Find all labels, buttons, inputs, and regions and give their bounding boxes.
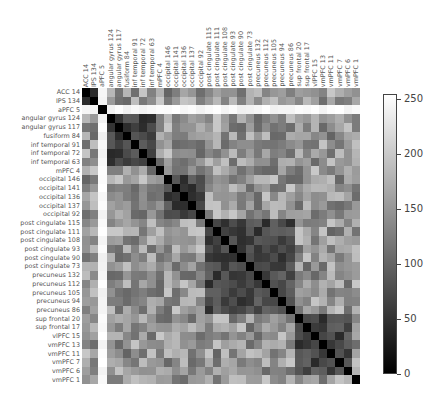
column-label: inf temporal 91: [131, 38, 139, 87]
row-label: inf temporal 72: [31, 149, 80, 157]
column-label: post cingulate 73: [246, 31, 254, 87]
colorbar-tick: [397, 154, 401, 155]
column-label: precuneus 105: [270, 39, 278, 87]
column-label: occipital 92: [197, 50, 205, 87]
row-label: post cingulate 108: [20, 236, 80, 244]
colorbar-tick-label: 50: [404, 314, 417, 324]
row-label: vmPFC 11: [48, 350, 80, 358]
row-label: sup frontal 17: [35, 323, 80, 331]
row-label: aPFC 5: [58, 106, 80, 114]
column-label: vmPFC 7: [336, 59, 344, 87]
column-label: vmPFC 11: [327, 55, 335, 87]
colorbar-tick-label: 150: [404, 204, 423, 214]
colorbar-tick-label: 100: [404, 259, 423, 269]
row-label: sup frontal 20: [35, 315, 80, 323]
column-label: vmPFC 6: [344, 59, 352, 87]
row-label: occipital 92: [43, 210, 80, 218]
row-label: occipital 137: [39, 202, 80, 210]
column-label: fusiform 84: [123, 51, 131, 87]
column-label: post cingulate 115: [205, 27, 213, 87]
column-label: vmPFC 13: [319, 55, 327, 87]
column-label: angular gyrus 117: [115, 29, 123, 88]
row-label: post cingulate 93: [24, 245, 80, 253]
colorbar-tick: [397, 209, 401, 210]
row-label: occipital 141: [39, 184, 80, 192]
row-label: occipital 146: [39, 175, 80, 183]
row-label: inf temporal 91: [31, 141, 80, 149]
column-label: mPFC 4: [156, 63, 164, 87]
column-label: inf temporal 63: [148, 38, 156, 87]
row-label: ACC 14: [57, 88, 80, 96]
column-label: post cingulate 108: [221, 27, 229, 87]
column-label: sup frontal 20: [295, 42, 303, 87]
column-label: angular gyrus 124: [107, 29, 115, 88]
colorbar-tick: [397, 319, 401, 320]
row-label: post cingulate 111: [20, 228, 80, 236]
row-label: precuneus 132: [32, 271, 80, 279]
row-label: angular gyrus 124: [22, 114, 81, 122]
colorbar-tick: [397, 374, 401, 375]
row-label: mPFC 4: [56, 167, 80, 175]
colorbar-tick-label: 200: [404, 149, 423, 159]
column-label: post cingulate 111: [213, 27, 221, 87]
colorbar-tick: [397, 264, 401, 265]
row-label: vmPFC 6: [52, 367, 80, 375]
row-label: precuneus 112: [32, 280, 80, 288]
column-label: ACC 14: [82, 64, 90, 87]
column-label: occipital 137: [188, 46, 196, 87]
column-label: aPFC 5: [98, 65, 106, 87]
column-label: precuneus 132: [254, 39, 262, 87]
column-label: occipital 141: [172, 46, 180, 87]
column-label: vmPFC 1: [352, 59, 360, 87]
heatmap-matrix: [82, 88, 360, 384]
row-label: post cingulate 115: [20, 219, 80, 227]
column-label: inf temporal 72: [139, 38, 147, 87]
row-label: precuneus 86: [36, 306, 80, 314]
row-label: vmPFC 7: [52, 358, 80, 366]
heatmap-cell: [352, 375, 361, 384]
column-label: occipital 146: [164, 46, 172, 87]
column-label: precuneus 94: [278, 43, 286, 87]
column-label: precuneus 112: [262, 39, 270, 87]
column-label: vlPFC 15: [311, 59, 319, 87]
colorbar-tick-label: 250: [404, 94, 423, 104]
colorbar-tick-label: 0: [404, 369, 410, 379]
colorbar-tick: [397, 99, 401, 100]
row-label: post cingulate 90: [24, 254, 80, 262]
column-label: occipital 136: [180, 46, 188, 87]
row-label: angular gyrus 117: [22, 123, 81, 131]
row-label: vlPFC 15: [52, 332, 80, 340]
row-label: vmPFC 1: [52, 376, 80, 384]
row-label: post cingulate 73: [24, 262, 80, 270]
row-label: fusiform 84: [44, 132, 80, 140]
row-label: occipital 136: [39, 193, 80, 201]
colorbar: [383, 94, 397, 374]
row-label: IPS 134: [56, 97, 80, 105]
row-label: precuneus 94: [36, 297, 80, 305]
column-label: post cingulate 90: [237, 31, 245, 87]
column-label: precuneus 86: [287, 43, 295, 87]
row-label: vmPFC 13: [48, 341, 80, 349]
column-label: sup frontal 17: [303, 42, 311, 87]
row-label: inf temporal 63: [31, 158, 80, 166]
row-label: precuneus 105: [32, 289, 80, 297]
